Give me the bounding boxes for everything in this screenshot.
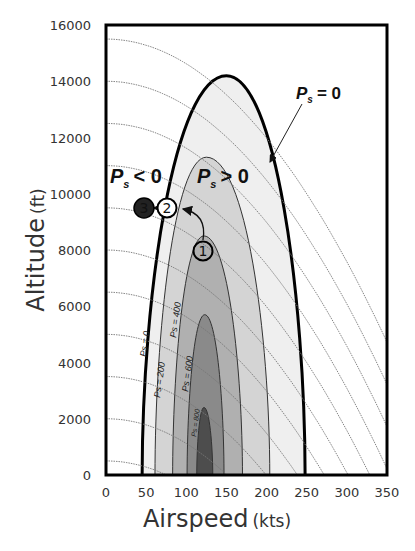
y-tick-label: 10000 bbox=[50, 187, 91, 202]
chart: Ps = 0 Ps = 200 Ps = 400 Ps = 600 Ps = 8… bbox=[0, 0, 415, 551]
svg-text:Ps< 0: Ps< 0 bbox=[110, 165, 162, 190]
svg-text:2: 2 bbox=[163, 200, 172, 216]
x-tick-label: 300 bbox=[334, 485, 359, 500]
y-tick-label: 14000 bbox=[50, 74, 91, 89]
x-tick-label: 200 bbox=[254, 485, 279, 500]
x-tick-label: 350 bbox=[375, 485, 400, 500]
svg-text:1: 1 bbox=[199, 243, 208, 259]
svg-text:3: 3 bbox=[140, 200, 149, 216]
annotation-ps-lt-zero: Ps< 0 bbox=[110, 165, 162, 190]
y-tick-label: 4000 bbox=[58, 356, 91, 371]
annotation-ps-gt-zero: Ps> 0 bbox=[197, 165, 249, 190]
svg-text:Ps= 0: Ps= 0 bbox=[296, 84, 341, 105]
y-tick-label: 2000 bbox=[58, 412, 91, 427]
x-tick-label: 250 bbox=[294, 485, 319, 500]
y-axis-ticks: 0200040006000800010000120001400016000 bbox=[50, 18, 91, 483]
x-axis-title: Airspeed(kts) bbox=[143, 505, 291, 533]
point-2: 2 bbox=[158, 199, 177, 218]
point-3: 3 bbox=[134, 198, 154, 218]
x-axis-ticks: 050100150200250300350 bbox=[102, 485, 400, 500]
y-tick-label: 8000 bbox=[58, 243, 91, 258]
y-tick-label: 12000 bbox=[50, 131, 91, 146]
x-tick-label: 50 bbox=[138, 485, 155, 500]
svg-text:Ps> 0: Ps> 0 bbox=[197, 165, 249, 190]
y-tick-label: 0 bbox=[83, 468, 91, 483]
x-tick-label: 100 bbox=[174, 485, 199, 500]
y-tick-label: 16000 bbox=[50, 18, 91, 33]
y-tick-label: 6000 bbox=[58, 299, 91, 314]
plot-area bbox=[106, 25, 387, 496]
y-axis-title: Altitude(ft) bbox=[22, 188, 50, 311]
x-tick-label: 0 bbox=[102, 485, 110, 500]
x-tick-label: 150 bbox=[214, 485, 239, 500]
